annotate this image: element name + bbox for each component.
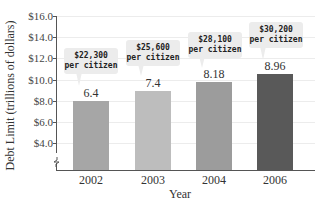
callout-pointer [76, 72, 82, 86]
callout-amount: $25,600 [126, 43, 180, 53]
value-label: 6.4 [71, 86, 111, 101]
bar-2003 [135, 91, 171, 170]
callout-amount: $30,200 [249, 25, 303, 35]
callout-2002: $22,300 per citizen [64, 48, 118, 74]
axis-break-icon [52, 153, 61, 163]
callout-per-citizen: per citizen [188, 45, 242, 55]
value-label: 7.4 [133, 76, 173, 91]
x-tick-label: 2003 [133, 173, 173, 188]
x-axis [56, 170, 315, 171]
callout-2004: $28,100 per citizen [188, 32, 242, 58]
gridline [57, 16, 315, 17]
y-tick-label: $12.0 [20, 52, 53, 64]
callout-per-citizen: per citizen [64, 61, 118, 71]
x-tick-label: 2006 [255, 173, 295, 188]
callout-2006: $30,200 per citizen [249, 22, 303, 48]
callout-per-citizen: per citizen [249, 35, 303, 45]
value-label: 8.18 [194, 67, 234, 82]
callout-pointer [260, 46, 266, 60]
x-tick-label: 2002 [71, 173, 111, 188]
y-axis-title: Debt Limit (trillions of dollars) [2, 20, 20, 170]
y-axis-title-text: Debt Limit (trillions of dollars) [4, 20, 19, 170]
callout-per-citizen: per citizen [126, 53, 180, 63]
bar-2004 [196, 82, 232, 170]
value-label: 8.96 [255, 59, 295, 74]
y-axis [56, 16, 57, 171]
y-tick-label: $16.0 [20, 10, 53, 22]
x-axis-title: Year [160, 187, 200, 202]
bar-2002 [73, 101, 109, 170]
y-tick-label: $8.0 [20, 95, 53, 107]
y-tick-label: $6.0 [20, 116, 53, 128]
x-tick-label: 2004 [194, 173, 234, 188]
callout-2003: $25,600 per citizen [126, 40, 180, 66]
callout-amount: $22,300 [64, 51, 118, 61]
y-tick-label: $10.0 [20, 74, 53, 86]
y-tick-label: $14.0 [20, 31, 53, 43]
callout-amount: $28,100 [188, 35, 242, 45]
debt-limit-bar-chart: Debt Limit (trillions of dollars) $16.0 … [0, 0, 316, 206]
y-tick-label: $4.0 [20, 137, 53, 149]
bar-2006 [257, 74, 293, 170]
